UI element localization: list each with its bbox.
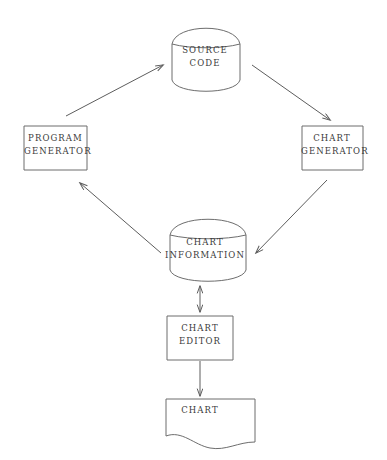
node-label-chart-generator: CHART GENERATOR — [301, 132, 363, 158]
diagram-canvas: SOURCE CODE PROGRAM GENERATOR CHART GENE… — [0, 0, 387, 460]
edge-source-code-to-chart-generator — [252, 65, 330, 120]
node-label-chart-editor-line1: CHART — [167, 322, 233, 335]
node-label-program-generator: PROGRAM GENERATOR — [24, 132, 87, 158]
edge-program-generator-to-source-code — [66, 65, 163, 116]
node-label-program-generator-line1: PROGRAM — [24, 132, 87, 145]
node-label-source-code: SOURCE CODE — [168, 44, 242, 70]
node-label-chart-information: CHART INFORMATION — [163, 236, 247, 262]
node-label-chart-editor: CHART EDITOR — [167, 322, 233, 348]
node-label-chart-information-line1: CHART — [163, 236, 247, 249]
edge-chart-generator-to-chart-information — [256, 180, 327, 253]
node-label-source-code-line2: CODE — [168, 57, 242, 70]
node-label-chart: CHART — [167, 404, 233, 417]
node-label-chart-information-line2: INFORMATION — [163, 249, 247, 262]
node-label-chart-generator-line1: CHART — [301, 132, 363, 145]
node-label-source-code-line1: SOURCE — [168, 44, 242, 57]
node-label-chart-line1: CHART — [167, 404, 233, 417]
edge-chart-information-to-program-generator — [80, 183, 161, 253]
node-label-chart-editor-line2: EDITOR — [167, 335, 233, 348]
node-label-program-generator-line2: GENERATOR — [24, 145, 87, 158]
node-label-chart-generator-line2: GENERATOR — [301, 145, 363, 158]
